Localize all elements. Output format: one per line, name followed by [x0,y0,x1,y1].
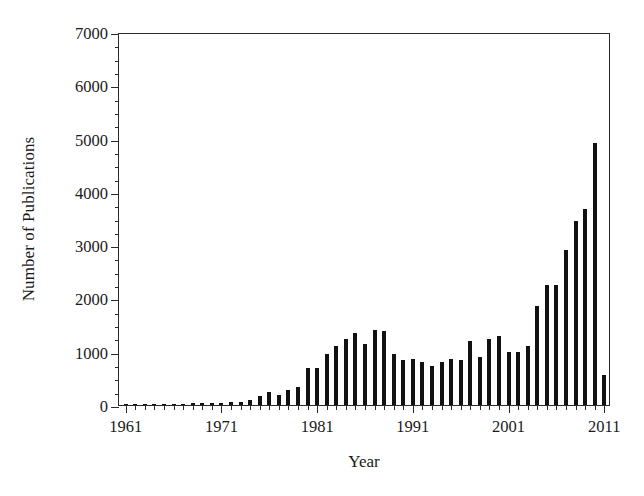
bar-1992 [420,362,424,405]
bar-2006 [554,285,558,405]
y-major-tick-3000 [111,247,119,248]
y-major-tick-0 [111,407,119,408]
y-minor-tick-6500 [115,61,120,62]
y-minor-tick-4250 [115,181,120,182]
bar-1985 [353,333,357,405]
bar-1979 [296,387,300,405]
y-tick-label-0: 0 [100,397,108,417]
y-minor-tick-3500 [115,221,120,222]
x-minor-tick-1992 [422,405,423,410]
x-minor-tick-1978 [288,405,289,410]
x-minor-tick-1997 [470,405,471,410]
y-tick-label-4000: 4000 [75,184,108,204]
y-tick-label-6000: 6000 [75,77,108,97]
y-minor-tick-1250 [115,340,120,341]
y-minor-tick-2750 [115,260,120,261]
bar-series [119,34,609,405]
publications-bar-chart: Number of Publications 01000200030004000… [0,0,644,496]
x-minor-tick-1984 [346,405,347,410]
x-minor-tick-1966 [174,405,175,410]
x-tick-label-2011: 2011 [588,417,620,437]
x-minor-tick-1979 [298,405,299,410]
x-minor-tick-1993 [432,405,433,410]
bar-1975 [258,396,262,405]
x-minor-tick-1988 [384,405,385,410]
x-minor-tick-1963 [145,405,146,410]
bar-2000 [497,336,501,405]
y-minor-tick-2500 [115,274,120,275]
x-minor-tick-1970 [212,405,213,410]
bar-1983 [334,346,338,405]
bar-1999 [487,339,491,405]
bar-1982 [325,354,329,405]
bar-1988 [382,331,386,405]
x-minor-tick-1994 [442,405,443,410]
y-minor-tick-500 [115,380,120,381]
x-minor-tick-1989 [394,405,395,410]
bar-1976 [267,392,271,405]
bar-2009 [583,209,587,405]
y-major-tick-7000 [111,34,119,35]
x-tick-label-1961: 1961 [109,417,142,437]
x-minor-tick-1977 [279,405,280,410]
bar-1981 [315,368,319,405]
bar-1984 [344,339,348,405]
y-tick-label-1000: 1000 [75,344,108,364]
x-minor-tick-2002 [518,405,519,410]
x-minor-tick-2009 [585,405,586,410]
y-major-tick-2000 [111,300,119,301]
y-minor-tick-5750 [115,101,120,102]
x-minor-tick-1982 [327,405,328,410]
bar-1994 [440,362,444,405]
bar-2007 [564,250,568,405]
x-minor-tick-1964 [154,405,155,410]
x-minor-tick-2000 [499,405,500,410]
x-minor-tick-1972 [231,405,232,410]
x-major-tick-2001 [509,405,510,413]
plot-area: 0100020003000400050006000700019611971198… [118,33,610,406]
x-minor-tick-2003 [528,405,529,410]
bar-2002 [516,352,520,405]
y-major-tick-6000 [111,87,119,88]
bar-2005 [545,285,549,405]
x-minor-tick-1976 [269,405,270,410]
x-minor-tick-1969 [202,405,203,410]
bar-2011 [602,375,606,405]
x-minor-tick-1965 [164,405,165,410]
x-minor-tick-1962 [135,405,136,410]
bar-2003 [526,346,530,405]
x-tick-label-1971: 1971 [205,417,238,437]
x-minor-tick-1998 [480,405,481,410]
x-major-tick-2011 [604,405,605,413]
x-minor-tick-1968 [193,405,194,410]
x-minor-tick-1987 [375,405,376,410]
y-axis-title: Number of Publications [15,33,43,406]
x-minor-tick-2004 [537,405,538,410]
y-tick-label-3000: 3000 [75,237,108,257]
y-major-tick-5000 [111,141,119,142]
y-minor-tick-5250 [115,127,120,128]
x-minor-tick-2007 [566,405,567,410]
y-tick-label-7000: 7000 [75,24,108,44]
x-minor-tick-1999 [489,405,490,410]
bar-1978 [286,390,290,405]
x-major-tick-1991 [413,405,414,413]
bar-1977 [277,395,281,405]
y-minor-tick-6250 [115,74,120,75]
bar-2010 [593,143,597,405]
y-minor-tick-6750 [115,47,120,48]
y-minor-tick-4500 [115,167,120,168]
x-tick-label-1991: 1991 [396,417,429,437]
bar-1990 [401,360,405,405]
y-minor-tick-1500 [115,327,120,328]
x-minor-tick-1985 [355,405,356,410]
y-major-tick-4000 [111,194,119,195]
x-minor-tick-2005 [547,405,548,410]
y-tick-label-2000: 2000 [75,290,108,310]
x-minor-tick-1996 [461,405,462,410]
bar-1989 [392,354,396,405]
x-minor-tick-1983 [336,405,337,410]
bar-2004 [535,306,539,405]
y-minor-tick-3250 [115,234,120,235]
x-tick-label-1981: 1981 [301,417,334,437]
